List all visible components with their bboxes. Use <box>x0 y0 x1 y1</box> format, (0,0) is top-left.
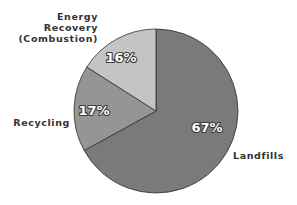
category-label-landfills: Landfills <box>233 150 284 161</box>
pct-label-recycling: 17% <box>78 103 109 118</box>
pct-label-landfills: 67% <box>191 120 222 135</box>
category-label-energy-line1: Energy <box>57 11 98 22</box>
category-label-energy-line3: (Combustion) <box>18 33 98 44</box>
category-label-energy-line2: Recovery <box>44 22 98 33</box>
pie-chart: 67% 17% 16% Landfills Recycling Energy R… <box>0 0 297 205</box>
pct-label-energy-recovery: 16% <box>105 50 136 65</box>
category-label-recycling: Recycling <box>13 117 70 128</box>
